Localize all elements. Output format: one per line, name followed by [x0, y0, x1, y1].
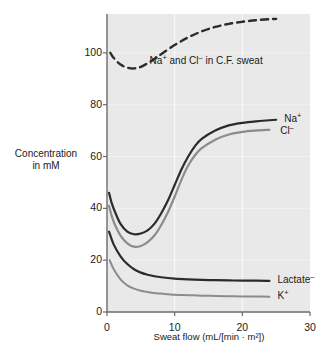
- y-tick-label-text: 0: [72, 305, 102, 317]
- x-tick-label: 20: [227, 317, 257, 335]
- curve-label-k: K+: [277, 290, 288, 301]
- y-tick-label: 40: [72, 201, 102, 213]
- y-tick-label-text: 80: [72, 98, 102, 110]
- y-tick-label-text: 100: [72, 46, 102, 58]
- curve-label-lactate: Lactate–: [277, 274, 314, 285]
- y-axis-title-line2: in mM: [32, 160, 59, 171]
- y-tick-label-text: 40: [72, 201, 102, 213]
- x-tick-label: 30: [295, 317, 323, 335]
- sweat-composition-figure: Concentration in mM Sweat flow (mL/[min …: [0, 0, 323, 350]
- y-tick-label: 100: [72, 46, 102, 58]
- x-axis-title: Sweat flow (mL/[min · m²]): [106, 331, 312, 343]
- x-tick-label-text: 10: [169, 321, 181, 333]
- x-tick-label-text: 20: [236, 321, 248, 333]
- y-tick-label-text: 60: [72, 150, 102, 162]
- x-tick-label: 0: [92, 317, 122, 335]
- y-tick-label: 80: [72, 98, 102, 110]
- y-axis-title-line1: Concentration: [15, 148, 77, 159]
- y-tick-label: 20: [72, 253, 102, 265]
- x-tick-label: 10: [160, 317, 190, 335]
- y-tick-label: 0: [72, 305, 102, 317]
- curve-label-cl: Cl–: [280, 125, 294, 136]
- x-tick-label-text: 30: [304, 321, 316, 333]
- x-tick-label-text: 0: [104, 321, 110, 333]
- y-tick-label-text: 20: [72, 253, 102, 265]
- curve-label-na-and-cl-in-c-f-sweat: Na+ and Cl– in C.F. sweat: [150, 55, 263, 66]
- y-tick-label: 60: [72, 150, 102, 162]
